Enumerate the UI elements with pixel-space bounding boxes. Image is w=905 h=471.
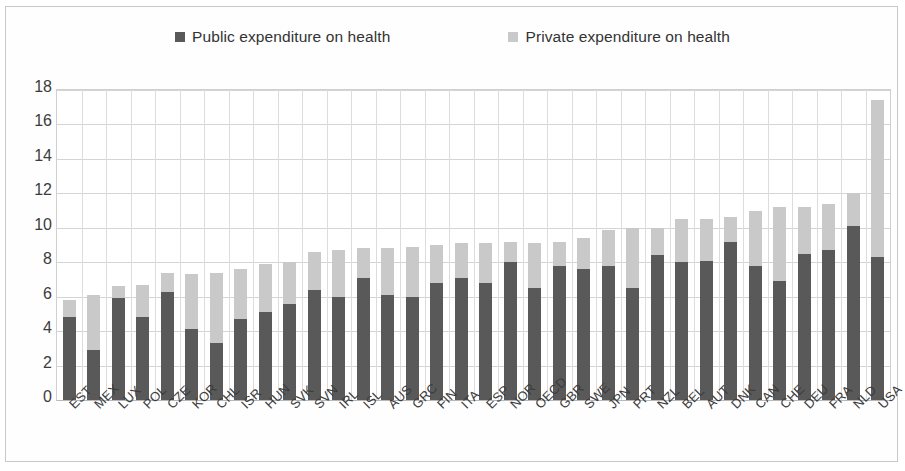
bar-column[interactable]	[381, 248, 394, 400]
bar-column[interactable]	[602, 230, 615, 401]
bar-segment-private[interactable]	[822, 204, 835, 251]
bar-column[interactable]	[87, 295, 100, 400]
bar-segment-public[interactable]	[63, 317, 76, 400]
bar-segment-public[interactable]	[724, 242, 737, 400]
bar-segment-private[interactable]	[357, 248, 370, 277]
bar-segment-public[interactable]	[381, 295, 394, 400]
bar-segment-private[interactable]	[308, 252, 321, 290]
y-tick-label: 10	[16, 217, 52, 233]
bar-column[interactable]	[185, 274, 198, 400]
bar-segment-public[interactable]	[504, 262, 517, 400]
bar-segment-private[interactable]	[112, 286, 125, 298]
bar-segment-public[interactable]	[626, 288, 639, 400]
bar-segment-private[interactable]	[479, 243, 492, 283]
bar-series-group	[57, 90, 890, 400]
bar-column[interactable]	[136, 285, 149, 400]
bar-segment-public[interactable]	[259, 312, 272, 400]
bar-segment-private[interactable]	[528, 243, 541, 288]
bar-segment-private[interactable]	[332, 250, 345, 297]
bar-column[interactable]	[357, 248, 370, 400]
bar-segment-private[interactable]	[283, 262, 296, 303]
bar-segment-public[interactable]	[822, 250, 835, 400]
x-axis: ESTMEXLUXPOLCZEKORCHLISRHUNSVKSVNIRLISLA…	[56, 401, 889, 463]
bar-segment-public[interactable]	[700, 261, 713, 401]
bar-segment-private[interactable]	[651, 228, 664, 256]
bar-segment-public[interactable]	[847, 226, 860, 400]
bar-column[interactable]	[724, 217, 737, 400]
bar-column[interactable]	[651, 228, 664, 400]
y-tick-label: 14	[16, 148, 52, 164]
bar-segment-public[interactable]	[161, 292, 174, 401]
bar-column[interactable]	[332, 250, 345, 400]
bar-segment-public[interactable]	[577, 269, 590, 400]
y-tick-label: 16	[16, 113, 52, 129]
bar-segment-private[interactable]	[455, 243, 468, 277]
bar-segment-public[interactable]	[651, 255, 664, 400]
bar-segment-private[interactable]	[749, 211, 762, 266]
bar-segment-private[interactable]	[381, 248, 394, 295]
bar-column[interactable]	[430, 245, 443, 400]
bar-column[interactable]	[283, 262, 296, 400]
bar-segment-public[interactable]	[455, 278, 468, 400]
bar-column[interactable]	[700, 219, 713, 400]
bar-column[interactable]	[528, 243, 541, 400]
bar-segment-public[interactable]	[308, 290, 321, 400]
bar-segment-public[interactable]	[749, 266, 762, 400]
bar-column[interactable]	[479, 243, 492, 400]
bar-segment-public[interactable]	[773, 281, 786, 400]
y-axis: 024681012141618	[16, 87, 52, 399]
bar-segment-public[interactable]	[479, 283, 492, 400]
bar-segment-public[interactable]	[871, 257, 884, 400]
bar-segment-private[interactable]	[626, 228, 639, 288]
bar-segment-private[interactable]	[259, 264, 272, 312]
chart-frame: Public expenditure on health Private exp…	[5, 6, 898, 462]
bar-segment-public[interactable]	[675, 262, 688, 400]
bar-column[interactable]	[871, 100, 884, 400]
y-tick-label: 8	[16, 251, 52, 267]
bar-segment-private[interactable]	[553, 242, 566, 266]
bar-segment-public[interactable]	[798, 254, 811, 400]
bar-column[interactable]	[822, 204, 835, 400]
bar-segment-private[interactable]	[161, 273, 174, 292]
bar-segment-private[interactable]	[63, 300, 76, 317]
bar-segment-private[interactable]	[700, 219, 713, 260]
y-tick-label: 6	[16, 286, 52, 302]
bar-column[interactable]	[577, 238, 590, 400]
bar-column[interactable]	[675, 219, 688, 400]
bar-segment-private[interactable]	[847, 193, 860, 226]
y-tick-label: 18	[16, 79, 52, 95]
bar-segment-private[interactable]	[136, 285, 149, 318]
bar-column[interactable]	[455, 243, 468, 400]
bar-column[interactable]	[210, 273, 223, 400]
bar-segment-private[interactable]	[773, 207, 786, 281]
bar-column[interactable]	[234, 269, 247, 400]
bar-segment-private[interactable]	[577, 238, 590, 269]
bar-segment-private[interactable]	[504, 242, 517, 263]
bar-column[interactable]	[308, 252, 321, 400]
bar-segment-private[interactable]	[675, 219, 688, 262]
bar-column[interactable]	[749, 211, 762, 400]
bar-segment-private[interactable]	[724, 217, 737, 241]
bar-segment-private[interactable]	[87, 295, 100, 350]
bar-segment-private[interactable]	[210, 273, 223, 344]
bar-segment-private[interactable]	[234, 269, 247, 319]
bar-column[interactable]	[626, 228, 639, 400]
bar-segment-public[interactable]	[357, 278, 370, 400]
bar-column[interactable]	[504, 242, 517, 400]
bar-segment-private[interactable]	[602, 230, 615, 266]
bar-column[interactable]	[773, 207, 786, 400]
bar-column[interactable]	[406, 247, 419, 400]
bar-segment-private[interactable]	[430, 245, 443, 283]
bar-segment-private[interactable]	[871, 100, 884, 257]
bar-segment-private[interactable]	[406, 247, 419, 297]
bar-column[interactable]	[847, 193, 860, 400]
bar-column[interactable]	[63, 300, 76, 400]
bar-segment-private[interactable]	[185, 274, 198, 329]
bar-column[interactable]	[798, 207, 811, 400]
bar-segment-public[interactable]	[602, 266, 615, 400]
y-tick-label: 2	[16, 355, 52, 371]
bar-column[interactable]	[161, 273, 174, 400]
bar-segment-private[interactable]	[798, 207, 811, 254]
bar-column[interactable]	[259, 264, 272, 400]
bar-segment-public[interactable]	[332, 297, 345, 400]
